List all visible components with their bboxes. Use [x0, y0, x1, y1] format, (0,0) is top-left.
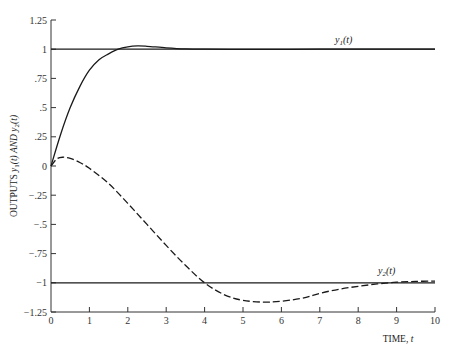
x-tick-label: 8 — [356, 315, 361, 326]
x-tick-label: 9 — [394, 315, 399, 326]
x-tick-label: 2 — [125, 315, 130, 326]
series-label-y1: y1(t) — [334, 34, 353, 47]
x-tick-label: 7 — [317, 315, 322, 326]
y-tick-label: 1.25 — [30, 15, 48, 26]
y-tick-label: −.75 — [29, 248, 47, 259]
x-tick-label: 4 — [202, 315, 207, 326]
y-tick-label: .75 — [35, 73, 48, 84]
axes: 1.251.75.5.250−.25−.5−.75−1−1.2501234567… — [24, 15, 440, 327]
y-tick-label: 0 — [42, 161, 47, 172]
y-axis-title: OUTPUTS y1(t) AND y2(t) — [9, 115, 21, 217]
x-tick-label: 1 — [87, 315, 92, 326]
chart-canvas: 1.251.75.5.250−.25−.5−.75−1−1.2501234567… — [0, 0, 454, 358]
x-tick-label: 6 — [279, 315, 284, 326]
y-tick-label: −.25 — [29, 190, 47, 201]
x-tick-label: 5 — [241, 315, 246, 326]
series-line-y2 — [51, 157, 435, 302]
series-line-y1 — [51, 46, 435, 166]
series-label-y2: y2(t) — [377, 265, 396, 278]
series-group — [51, 46, 435, 302]
x-tick-label: 3 — [164, 315, 169, 326]
y-tick-label: −.5 — [34, 219, 47, 230]
reference-lines — [51, 49, 435, 283]
y-tick-label: .5 — [40, 102, 48, 113]
x-tick-label: 10 — [430, 315, 440, 326]
x-tick-label: 0 — [49, 315, 54, 326]
y-tick-label: −1.25 — [24, 307, 47, 318]
x-axis-title: TIME, t — [383, 334, 414, 344]
y-tick-label: .25 — [35, 131, 48, 142]
y-tick-label: −1 — [36, 277, 47, 288]
y-tick-label: 1 — [42, 44, 47, 55]
